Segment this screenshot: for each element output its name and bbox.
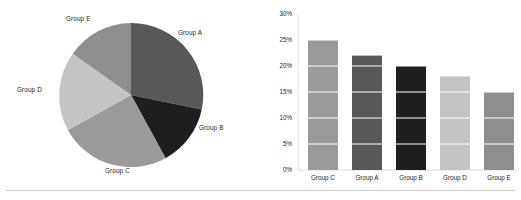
bar-group-e (484, 92, 514, 170)
bar-group-d (440, 76, 470, 170)
x-tick-group-d: Group D (433, 174, 477, 181)
y-tick-5: 5% (268, 140, 292, 147)
y-tick-20: 20% (268, 62, 292, 69)
pie-chart-svg (0, 0, 260, 190)
bar-group-a (352, 56, 382, 170)
x-tick-group-a: Group A (345, 174, 389, 181)
pie-label-group-d: Group D (17, 86, 42, 93)
y-tick-10: 10% (268, 114, 292, 121)
figure-root: Group A Group B Group C Group D Group E (0, 0, 521, 200)
x-tick-group-b: Group B (389, 174, 433, 181)
pie-label-group-c: Group C (105, 167, 130, 174)
y-tick-0: 0% (268, 166, 292, 173)
y-tick-30: 30% (268, 10, 292, 17)
pie-chart-panel: Group A Group B Group C Group D Group E (0, 0, 260, 190)
x-tick-group-c: Group C (301, 174, 345, 181)
bar-group-c (308, 40, 338, 170)
bottom-divider (6, 190, 515, 191)
y-tick-25: 25% (268, 36, 292, 43)
y-tick-15: 15% (268, 88, 292, 95)
pie-label-group-a: Group A (178, 29, 202, 36)
bar-chart-panel: 30% 25% 20% 15% 10% 5% 0% Group C Group … (266, 0, 521, 190)
x-tick-group-e: Group E (477, 174, 521, 181)
pie-label-group-b: Group B (199, 124, 224, 131)
pie-label-group-e: Group E (66, 15, 91, 22)
bar-chart-svg (266, 0, 521, 190)
